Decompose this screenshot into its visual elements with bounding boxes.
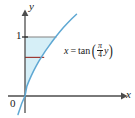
y-axis-label: y [29,1,34,12]
equation-argument: y [104,46,108,56]
y-axis-arrowhead [22,10,29,17]
equation-open-paren: ( [92,45,96,58]
equation-close-paren: ) [109,45,113,58]
shaded-region [25,37,56,96]
y-tick-label-1: 1 [16,30,22,41]
equation-fraction: π 4 [97,42,103,60]
x-axis-label: x [126,89,131,100]
curve-equation-label: x = tan ( π 4 y ) [64,42,113,60]
equation-denominator: 4 [97,50,103,59]
origin-label: 0 [10,98,16,109]
equation-equals: = [70,46,76,56]
math-figure: y x 1 0 x = tan ( π 4 y ) [0,0,135,118]
equation-function: tan [78,46,90,56]
equation-lhs: x [64,46,68,56]
equation-numerator: π [97,42,103,50]
